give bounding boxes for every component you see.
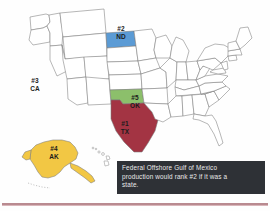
screenshot-root: #1 TX #2 ND #3 CA #4 AK #5 OK Federal Of… — [0, 0, 270, 211]
state-shape-mi — [170, 37, 189, 62]
offshore-note-callout: Federal Offshore Gulf of Mexico producti… — [117, 161, 265, 194]
state-shape-ak — [30, 140, 78, 178]
state-shape-me — [236, 27, 252, 49]
state-shape-hi-5 — [106, 156, 110, 160]
state-shape-wy — [63, 33, 107, 59]
state-shape-sd — [107, 46, 138, 62]
state-shape-mn — [134, 29, 156, 61]
state-shape-ak-west — [22, 150, 31, 160]
state-shape-ne — [107, 61, 141, 75]
state-shape-ak-panhandle — [70, 163, 95, 183]
state-shape-hi-3 — [98, 151, 100, 153]
state-shape-hi-2 — [95, 148, 97, 150]
state-shape-co — [84, 56, 109, 80]
state-shape-ms — [168, 96, 183, 117]
offshore-note-line-2: production would rank #2 if it was a — [122, 173, 261, 182]
offshore-note-line-1: Federal Offshore Gulf of Mexico — [122, 164, 261, 173]
state-shape-fl — [193, 114, 223, 146]
state-shape-ak-aleutians — [28, 183, 50, 188]
state-shape-hi-4 — [102, 153, 105, 156]
offshore-note-line-3: state. — [122, 181, 261, 190]
state-shape-wi — [154, 35, 172, 58]
state-shape-hi-6 — [104, 161, 109, 166]
state-shape-ar — [142, 88, 168, 104]
state-shape-nm — [86, 77, 111, 105]
state-shape-hi-1 — [92, 147, 94, 149]
us-oil-production-map: #1 TX #2 ND #3 CA #4 AK #5 OK Federal Of… — [0, 0, 270, 211]
state-shape-az — [67, 77, 88, 105]
state-shape-nd — [106, 31, 136, 48]
state-shape-ks — [109, 74, 142, 90]
bottom-divider-rule-soft — [2, 205, 268, 206]
state-shape-mt — [60, 9, 106, 37]
